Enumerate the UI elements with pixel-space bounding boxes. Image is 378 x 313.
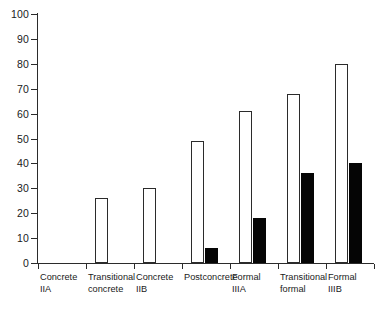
bar-open (287, 94, 300, 263)
category-label-line2: IIB (136, 284, 182, 296)
x-axis-tick (182, 264, 183, 269)
y-axis-tick (31, 238, 37, 239)
bar-filled (301, 173, 314, 263)
y-axis-tick (31, 89, 37, 90)
x-axis-category-label: ConcreteIIB (136, 272, 182, 295)
x-axis-tick (230, 264, 231, 269)
y-axis-tick (31, 64, 37, 65)
category-label-line2: IIIA (232, 284, 278, 296)
x-axis-category-label: FormalIIIA (232, 272, 278, 295)
category-label-line2: concrete (88, 284, 134, 296)
y-axis-tick (31, 14, 37, 15)
bar-open (95, 198, 108, 263)
x-axis-category-label: Postconcrete (184, 272, 230, 284)
x-axis-category-label: Transitionalconcrete (88, 272, 134, 295)
x-axis-tick (134, 264, 135, 269)
x-axis-tick (86, 264, 87, 269)
y-axis-tick-label: 0 (0, 258, 29, 268)
y-axis-tick (31, 163, 37, 164)
category-label-line1: Formal (232, 272, 261, 282)
category-label-line1: Concrete (40, 272, 77, 282)
y-axis-tick-label: 100 (0, 9, 29, 19)
bar-open (239, 111, 252, 263)
category-label-line1: Postconcrete (184, 272, 238, 282)
x-axis-line (37, 263, 374, 264)
y-axis-tick (31, 263, 37, 264)
bar-open (191, 141, 204, 263)
y-axis-tick (31, 114, 37, 115)
y-axis-tick-label: 80 (0, 59, 29, 69)
x-axis-tick (278, 264, 279, 269)
y-axis-tick (31, 139, 37, 140)
y-axis-tick-label: 30 (0, 183, 29, 193)
bar-open (335, 64, 348, 263)
bar-filled (349, 163, 362, 263)
bar-chart: 0102030405060708090100ConcreteIIATransit… (0, 0, 378, 313)
category-label-line2: formal (280, 284, 326, 296)
x-axis-category-label: ConcreteIIA (40, 272, 86, 295)
x-axis-tick (374, 264, 375, 269)
y-axis-tick-label: 60 (0, 109, 29, 119)
y-axis-tick-label: 10 (0, 233, 29, 243)
bar-open (143, 188, 156, 263)
y-axis-tick-label: 40 (0, 158, 29, 168)
x-axis-tick (38, 264, 39, 269)
bar-filled (253, 218, 266, 263)
y-axis-tick-label: 20 (0, 208, 29, 218)
y-axis-tick (31, 39, 37, 40)
category-label-line1: Transitional (88, 272, 135, 282)
x-axis-category-label: FormalIIIB (328, 272, 374, 295)
y-axis-tick (31, 213, 37, 214)
y-axis-tick-label: 90 (0, 34, 29, 44)
category-label-line1: Transitional (280, 272, 327, 282)
category-label-line1: Formal (328, 272, 357, 282)
y-axis-tick-label: 70 (0, 84, 29, 94)
x-axis-category-label: Transitionalformal (280, 272, 326, 295)
category-label-line1: Concrete (136, 272, 173, 282)
y-axis-tick-label: 50 (0, 134, 29, 144)
y-axis-line (37, 13, 38, 264)
category-label-line2: IIA (40, 284, 86, 296)
bar-filled (205, 248, 218, 263)
x-axis-tick (326, 264, 327, 269)
y-axis-tick (31, 188, 37, 189)
category-label-line2: IIIB (328, 284, 374, 296)
